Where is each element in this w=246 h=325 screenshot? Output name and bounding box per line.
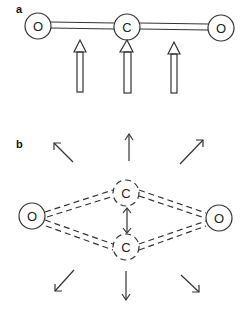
atom-symbol: C [121, 240, 130, 255]
atom-symbol: O [33, 19, 43, 34]
arrow-up-icon [125, 134, 133, 161]
atom-symbol: O [216, 21, 226, 36]
hollow-arrow-icon [74, 40, 86, 92]
atom-symbol: C [122, 20, 131, 35]
co2-vibration-diagram: a b [0, 0, 246, 325]
atom-symbol: O [214, 211, 224, 226]
hollow-arrow-icon [168, 42, 180, 93]
diagram-drawing: O C O O C C O [0, 0, 246, 325]
atom-symbol: O [27, 209, 37, 224]
arrow-up-right-icon [180, 140, 203, 164]
arrow-up-left-icon [54, 143, 73, 162]
arrow-down-left-icon [55, 270, 74, 291]
arrow-down-icon [122, 271, 130, 300]
arrow-down-right-icon [181, 275, 199, 292]
atom-symbol: C [121, 186, 130, 201]
double-arrow-icon [123, 208, 131, 233]
hollow-arrow-icon [120, 40, 133, 93]
